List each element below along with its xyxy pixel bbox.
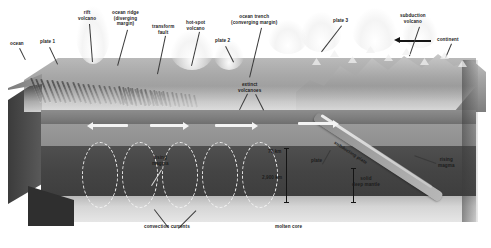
convection-cell: [162, 142, 198, 208]
label-hotspot-volcano: hot-spotvolcano: [186, 20, 205, 31]
depth-tick-70km: [284, 148, 289, 149]
convection-cell: [202, 142, 238, 208]
label-molten-core: molten core: [275, 224, 302, 230]
label-ocean-ridge: ocean ridge(divergingmargin): [112, 10, 139, 27]
label-plate-3: plate 3: [333, 18, 348, 24]
block-right-edge-shading: [462, 60, 478, 222]
arc-volcano-plume: [352, 8, 398, 52]
label-extinct-volcanoes: extinctvolcanoes: [238, 82, 261, 93]
convection-cell: [122, 142, 158, 208]
label-rising-magma-left: risingmagma: [152, 155, 169, 166]
label-continent: continent: [437, 37, 459, 43]
convection-cell: [82, 142, 118, 208]
label-subduction-volcano: subductionvolcano: [400, 13, 426, 24]
depth-tick-2900km: [284, 202, 289, 203]
arrow-plate1-east: [150, 124, 184, 127]
arrow-plate1-west: [92, 124, 128, 127]
label-rift-volcano: riftvolcano: [78, 10, 96, 21]
label-plate-1: plate 1: [40, 39, 55, 45]
label-depth-2900km: 2,900 km: [262, 175, 282, 181]
label-convection-currents: convection currents: [144, 224, 190, 230]
core-tick-bottom: [351, 202, 356, 203]
subducting-slab: [318, 112, 458, 208]
label-plate: plate: [311, 158, 322, 164]
depth-scale-line: [286, 148, 287, 202]
mountain-peak: [384, 54, 393, 61]
arrow-plate2-east: [215, 124, 253, 127]
label-ocean-trench: ocean trench(converging margin): [231, 14, 277, 25]
label-ocean: ocean: [10, 41, 24, 47]
label-solid-deep-mantle: soliddeep mantle: [352, 176, 380, 187]
label-rising-magma-right: risingmagma: [438, 157, 455, 168]
mountain-peak: [330, 50, 339, 57]
label-plate-2: plate 2: [215, 38, 230, 44]
label-depth-70km: 70 km: [268, 149, 282, 155]
plate-tectonics-diagram: ocean plate 1 riftvolcano ocean ridge(di…: [0, 0, 491, 248]
leader-line: [19, 48, 26, 60]
core-tick-top: [351, 168, 356, 169]
label-transform-fault: transformfault: [152, 24, 174, 35]
arrow-plate2-trench: [298, 122, 334, 125]
